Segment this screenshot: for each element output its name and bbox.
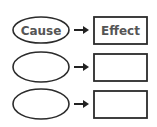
row-2 [13,52,147,82]
effect-box-3 [94,91,147,118]
cause-label-1: Cause [21,24,62,38]
cause-effect-diagram: Cause Effect [0,0,157,127]
cause-ellipse-3 [13,89,69,119]
row-1: Cause Effect [13,17,147,44]
effect-label-1: Effect [101,24,140,38]
effect-box-2 [94,54,147,81]
arrow-icon-3 [74,100,89,108]
arrow-icon-2 [74,63,89,71]
arrow-icon-1 [74,26,89,34]
cause-ellipse-2 [13,52,69,82]
row-3 [13,89,147,119]
